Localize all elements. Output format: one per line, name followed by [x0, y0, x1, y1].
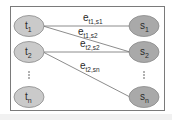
ellipsis-dot-right [143, 71, 144, 72]
node-tn: tn [14, 87, 44, 108]
ellipsis-dot-right [143, 77, 144, 78]
ellipsis-dot-left [28, 77, 29, 78]
node-s1: s1 [129, 16, 159, 37]
node-t1: t1 [14, 16, 44, 37]
bottom-shadow [0, 114, 172, 120]
node-t2: t2 [14, 42, 44, 63]
node-s2: s2 [129, 42, 159, 63]
ellipsis-dot-left [28, 71, 29, 72]
node-sn: sn [129, 87, 159, 108]
ellipsis-dot-left [28, 74, 29, 75]
ellipsis-dot-right [143, 74, 144, 75]
bipartite-diagram: et1,s1et1,s2et2,s2et2,snt1t2tns1s2sn [0, 0, 172, 120]
